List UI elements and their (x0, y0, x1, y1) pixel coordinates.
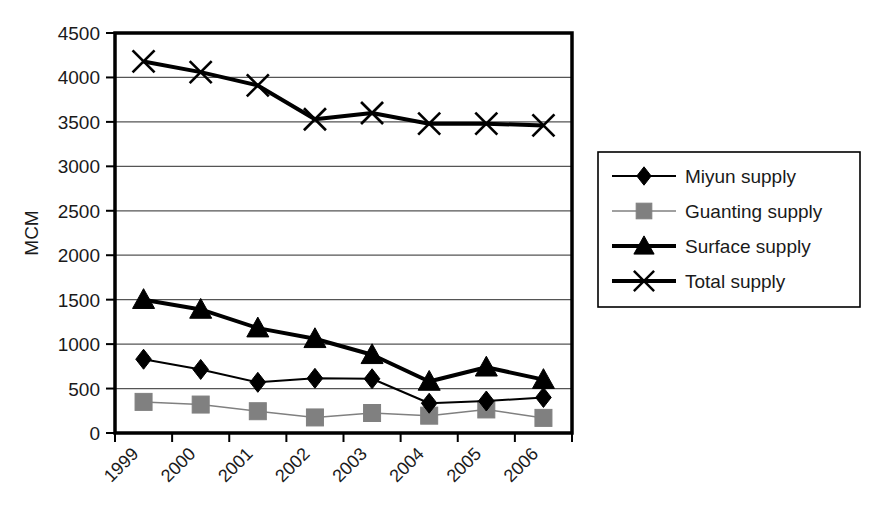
legend-label: Guanting supply (685, 201, 823, 222)
y-tick-label-0: 0 (89, 423, 100, 444)
legend-label: Total supply (685, 271, 786, 292)
data-point (364, 405, 381, 422)
water-supply-line-chart: 050010001500200025003000350040004500 MCM… (0, 0, 872, 524)
y-tick-label-3000: 3000 (58, 156, 100, 177)
marker-square (364, 405, 381, 422)
y-tick-label-1500: 1500 (58, 290, 100, 311)
data-point (306, 409, 323, 426)
marker-square (535, 409, 552, 426)
y-axis-title-group: MCM (21, 210, 42, 255)
y-tick-label-500: 500 (68, 379, 100, 400)
y-tick-label-1000: 1000 (58, 334, 100, 355)
marker-square (135, 393, 152, 410)
legend-label: Surface supply (685, 236, 811, 257)
legend-item-surface-supply[interactable]: Surface supply (612, 236, 811, 257)
data-point (135, 393, 152, 410)
y-tick-label-4500: 4500 (58, 23, 100, 44)
chart-legend: Miyun supplyGuanting supplySurface suppl… (598, 152, 860, 307)
data-point (192, 396, 209, 413)
marker-square (636, 203, 652, 219)
y-tick-label-4000: 4000 (58, 67, 100, 88)
y-axis-title: MCM (21, 210, 42, 255)
y-axis-title-group: MCM (21, 210, 42, 255)
y-tick-label-3500: 3500 (58, 112, 100, 133)
y-tick-label-2500: 2500 (58, 201, 100, 222)
legend-item-guanting-supply[interactable]: Guanting supply (612, 201, 823, 222)
marker-square (306, 409, 323, 426)
marker-square (192, 396, 209, 413)
data-point (249, 403, 266, 420)
data-point (535, 409, 552, 426)
legend-label: Miyun supply (685, 166, 796, 187)
marker-square (249, 403, 266, 420)
chart-figure: 050010001500200025003000350040004500 MCM… (0, 0, 872, 524)
y-tick-label-2000: 2000 (58, 245, 100, 266)
